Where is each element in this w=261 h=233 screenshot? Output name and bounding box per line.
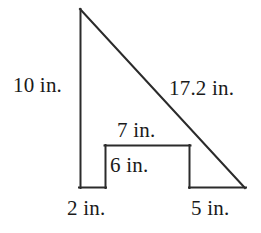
dimension-label-left-side: 10 in. xyxy=(13,75,62,96)
dimension-label-notch-top: 7 in. xyxy=(117,120,155,141)
dimension-label-notch-height: 6 in. xyxy=(110,155,148,176)
dimension-label-base-right: 5 in. xyxy=(191,198,229,219)
geometry-figure: 10 in. 17.2 in. 7 in. 6 in. 2 in. 5 in. xyxy=(0,0,261,233)
dimension-label-hypotenuse: 17.2 in. xyxy=(169,78,234,99)
dimension-label-base-left: 2 in. xyxy=(67,198,105,219)
